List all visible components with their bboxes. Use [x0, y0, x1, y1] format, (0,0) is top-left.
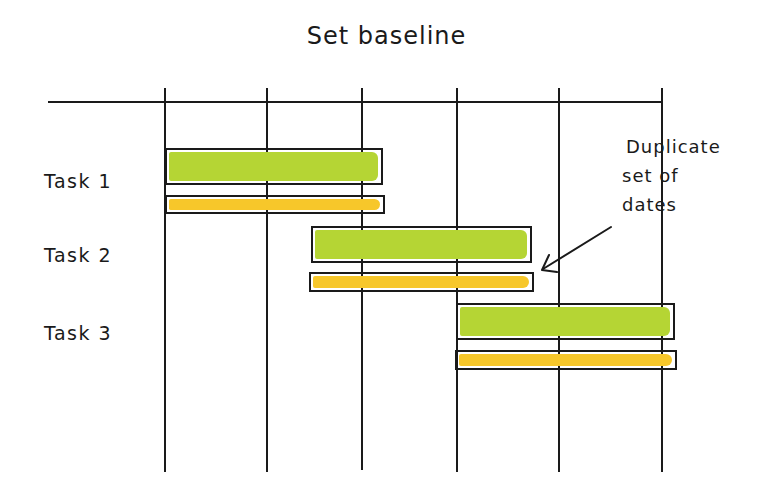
annotation-arrow-icon	[0, 0, 773, 492]
